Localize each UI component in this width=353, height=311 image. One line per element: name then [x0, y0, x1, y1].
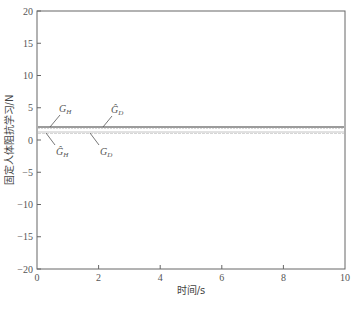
annotation-gh-hat: ĜH: [56, 146, 69, 159]
y-tick-labels: 20 15 10 5 0 −5 −10 −15 −20: [17, 6, 33, 275]
x-tick-label: 8: [281, 272, 286, 283]
line-chart: 20 15 10 5 0 −5 −10 −15 −20 0 2 4 6 8 10…: [0, 0, 353, 311]
y-tick-label: 15: [23, 38, 33, 49]
y-tick-label: 20: [23, 6, 33, 17]
y-axis-title: 固定人体阻抗学习/N: [3, 95, 15, 186]
y-tick-label: −5: [22, 167, 33, 178]
x-tick-label: 2: [96, 272, 101, 283]
x-axis: [99, 265, 284, 269]
x-tick-label: 4: [158, 272, 163, 283]
annotation-gd: GD: [100, 146, 112, 159]
annotation-leaders: [46, 115, 112, 145]
y-tick-label: −15: [17, 231, 33, 242]
x-tick-label: 6: [219, 272, 224, 283]
x-tick-labels: 0 2 4 6 8 10: [35, 272, 351, 283]
annotation-gd-hat: ĜD: [111, 104, 123, 117]
y-tick-label: −10: [17, 199, 33, 210]
y-axis: [37, 11, 41, 269]
y-tick-label: 0: [28, 135, 33, 146]
annotation-gh: GH: [59, 103, 72, 116]
series-lines: [38, 127, 344, 134]
x-tick-label: 0: [35, 272, 40, 283]
y-tick-label: −20: [17, 264, 33, 275]
y-tick-label: 5: [28, 102, 33, 113]
x-axis-title: 时间/s: [177, 284, 206, 296]
y-tick-label: 10: [23, 70, 33, 81]
plot-frame: [37, 11, 345, 269]
x-tick-label: 10: [340, 272, 350, 283]
